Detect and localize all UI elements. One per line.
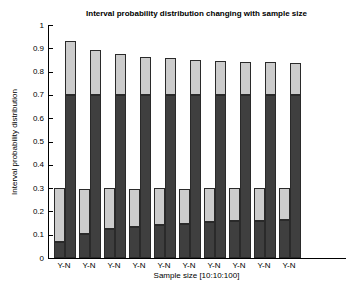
y-tick-label: 0.1 bbox=[4, 230, 44, 239]
bar-segment bbox=[279, 188, 290, 220]
n-bar bbox=[90, 25, 101, 258]
bar-segment bbox=[229, 221, 240, 258]
y-tick-label: 0.2 bbox=[4, 207, 44, 216]
bar-segment bbox=[104, 229, 115, 258]
y-tick-label: 0.4 bbox=[4, 160, 44, 169]
bar-segment bbox=[90, 95, 101, 258]
n-bar bbox=[190, 25, 201, 258]
y-tick-label: 0.6 bbox=[4, 114, 44, 123]
x-tick-label: Y-N bbox=[127, 261, 151, 270]
y-bar bbox=[54, 25, 65, 258]
bar-group bbox=[254, 25, 276, 258]
n-bar bbox=[140, 25, 151, 258]
x-tick-label: Y-N bbox=[227, 261, 251, 270]
x-tick-label: Y-N bbox=[202, 261, 226, 270]
y-bar bbox=[104, 25, 115, 258]
bar-segment bbox=[240, 62, 251, 95]
bar-segment bbox=[240, 95, 251, 258]
bar-segment bbox=[90, 50, 101, 95]
bar-segment bbox=[79, 234, 90, 258]
x-tick-label: Y-N bbox=[52, 261, 76, 270]
bar-segment bbox=[54, 242, 65, 258]
bar-segment bbox=[179, 224, 190, 258]
x-tick-label: Y-N bbox=[177, 261, 201, 270]
n-bar bbox=[65, 25, 76, 258]
y-tick-mark bbox=[49, 48, 53, 49]
bar-segment bbox=[165, 95, 176, 258]
n-bar bbox=[240, 25, 251, 258]
bar-segment bbox=[254, 188, 265, 221]
y-bar bbox=[229, 25, 240, 258]
bar-segment bbox=[54, 188, 65, 242]
y-tick-label: 0.7 bbox=[4, 90, 44, 99]
n-bar bbox=[290, 25, 301, 258]
y-bar bbox=[79, 25, 90, 258]
y-bar bbox=[204, 25, 215, 258]
bar-segment bbox=[265, 62, 276, 95]
x-tick-label: Y-N bbox=[277, 261, 301, 270]
bar-group bbox=[204, 25, 226, 258]
bar-segment bbox=[115, 95, 126, 258]
x-tick-label: Y-N bbox=[77, 261, 101, 270]
y-tick-label: 0.3 bbox=[4, 184, 44, 193]
y-tick-mark bbox=[49, 235, 53, 236]
bar-group bbox=[79, 25, 101, 258]
y-tick-mark bbox=[49, 118, 53, 119]
n-bar bbox=[265, 25, 276, 258]
bar-segment bbox=[204, 188, 215, 222]
y-bar bbox=[279, 25, 290, 258]
y-tick-mark bbox=[49, 25, 53, 26]
bar-segment bbox=[140, 57, 151, 95]
bar-segment bbox=[190, 60, 201, 95]
x-tick-label: Y-N bbox=[152, 261, 176, 270]
y-bar bbox=[154, 25, 165, 258]
y-tick-label: 0.5 bbox=[4, 137, 44, 146]
bar-group bbox=[179, 25, 201, 258]
y-tick-mark bbox=[49, 95, 53, 96]
bar-segment bbox=[129, 189, 140, 227]
bar-segment bbox=[290, 63, 301, 95]
bar-segment bbox=[129, 227, 140, 258]
y-tick-mark bbox=[49, 188, 53, 189]
bar-group bbox=[104, 25, 126, 258]
n-bar bbox=[165, 25, 176, 258]
bar-segment bbox=[165, 58, 176, 95]
bar-segment bbox=[265, 95, 276, 258]
bar-segment bbox=[65, 95, 76, 258]
plot-area bbox=[48, 25, 346, 259]
y-tick-mark bbox=[49, 211, 53, 212]
y-bar bbox=[254, 25, 265, 258]
y-bar bbox=[129, 25, 140, 258]
bar-segment bbox=[254, 221, 265, 258]
bar-group bbox=[279, 25, 301, 258]
x-tick-label: Y-N bbox=[102, 261, 126, 270]
bar-segment bbox=[140, 95, 151, 258]
y-tick-label: 0.8 bbox=[4, 67, 44, 76]
bar-segment bbox=[65, 41, 76, 95]
y-tick-mark bbox=[49, 142, 53, 143]
bar-segment bbox=[215, 61, 226, 95]
x-tick-label: Y-N bbox=[252, 261, 276, 270]
bar-segment bbox=[290, 95, 301, 258]
y-bar bbox=[179, 25, 190, 258]
bar-group bbox=[129, 25, 151, 258]
bar-segment bbox=[154, 225, 165, 258]
y-tick-label: 1 bbox=[4, 21, 44, 30]
bar-segment bbox=[104, 188, 115, 229]
bar-segment bbox=[115, 54, 126, 95]
bar-group bbox=[229, 25, 251, 258]
bar-group bbox=[154, 25, 176, 258]
bar-segment bbox=[215, 95, 226, 258]
chart-title: Interval probability distribution changi… bbox=[48, 9, 345, 18]
y-tick-label: 0.9 bbox=[4, 44, 44, 53]
bar-segment bbox=[229, 188, 240, 221]
n-bar bbox=[215, 25, 226, 258]
y-tick-label: 0 bbox=[4, 254, 44, 263]
y-tick-mark bbox=[49, 72, 53, 73]
bar-segment bbox=[190, 95, 201, 258]
chart-canvas: Interval probability distribution changi… bbox=[0, 0, 357, 297]
bar-segment bbox=[79, 189, 90, 234]
n-bar bbox=[115, 25, 126, 258]
x-axis-label: Sample size [10:10:100] bbox=[48, 271, 345, 280]
bar-segment bbox=[204, 222, 215, 258]
